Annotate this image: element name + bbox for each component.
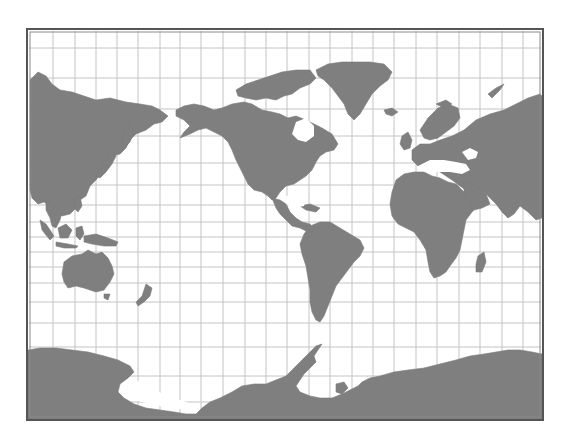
world-map — [0, 0, 568, 448]
map-canvas — [0, 0, 568, 448]
